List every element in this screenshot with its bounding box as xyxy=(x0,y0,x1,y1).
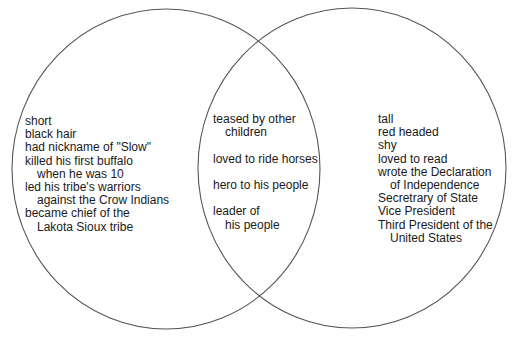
trait-text: Third President of the xyxy=(378,219,493,232)
trait-text: hero to his people xyxy=(213,179,318,192)
trait-text: killed his first buffalo xyxy=(25,155,169,168)
shared-traits: teased by other children loved to ride h… xyxy=(213,113,318,232)
trait-text: shy xyxy=(378,139,493,152)
left-only-traits: short black hair had nickname of "Slow" … xyxy=(25,115,169,234)
trait-text: loved to ride horses xyxy=(213,153,318,166)
right-only-traits: tall red headed shy loved to read wrote … xyxy=(378,113,493,245)
spacer xyxy=(213,166,318,179)
spacer xyxy=(213,139,318,152)
trait-text-continued: his people xyxy=(213,219,318,232)
trait-text-continued: United States xyxy=(378,232,493,245)
trait-text-continued: Lakota Sioux tribe xyxy=(25,221,169,234)
trait-text: became chief of the xyxy=(25,207,169,220)
trait-text: had nickname of "Slow" xyxy=(25,141,169,154)
trait-text: leader of xyxy=(213,205,318,218)
trait-text: Vice President xyxy=(378,205,493,218)
trait-text: loved to read xyxy=(378,153,493,166)
trait-text-continued: children xyxy=(213,126,318,139)
